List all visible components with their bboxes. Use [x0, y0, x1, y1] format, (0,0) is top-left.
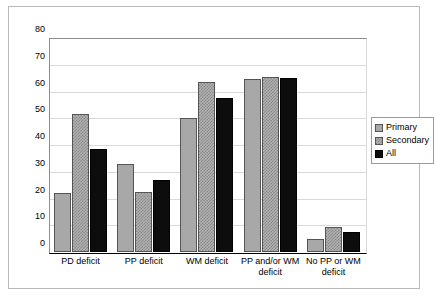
- legend-label: All: [386, 149, 396, 158]
- y-axis-tick-label: 80: [15, 25, 45, 34]
- bar-group: [302, 38, 365, 252]
- y-axis: 01020304050607080: [9, 38, 45, 252]
- legend-item[interactable]: All: [375, 147, 429, 160]
- bar: [244, 79, 261, 252]
- y-axis-tick-label: 10: [15, 212, 45, 221]
- y-axis-tick-label: 30: [15, 159, 45, 168]
- legend-item[interactable]: Primary: [375, 121, 429, 134]
- bar: [325, 227, 342, 252]
- bar: [307, 239, 324, 252]
- y-axis-tick-label: 40: [15, 132, 45, 141]
- y-axis-tick-label: 70: [15, 52, 45, 61]
- bar: [262, 77, 279, 252]
- bar: [343, 232, 360, 252]
- x-axis-tick-label: No PP or WM deficit: [296, 256, 371, 278]
- legend-label: Primary: [386, 123, 417, 132]
- x-axis: PD deficitPP deficitWM deficitPP and/or …: [49, 256, 365, 296]
- legend-swatch-icon: [375, 124, 383, 132]
- y-axis-tick-label: 50: [15, 105, 45, 114]
- bar: [153, 180, 170, 252]
- bar-group: [239, 38, 302, 252]
- bar-group: [175, 38, 238, 252]
- bar: [180, 118, 197, 252]
- legend-label: Secondary: [386, 136, 429, 145]
- bar: [135, 192, 152, 252]
- bar-group: [49, 38, 112, 252]
- legend-swatch-icon: [375, 137, 383, 145]
- bar: [90, 149, 107, 252]
- bar: [117, 164, 134, 252]
- bar: [54, 193, 71, 252]
- bar: [216, 98, 233, 252]
- legend-item[interactable]: Secondary: [375, 134, 429, 147]
- chart-figure: 01020304050607080 PD deficitPP deficitWM…: [8, 6, 420, 289]
- bar-group: [112, 38, 175, 252]
- bar: [280, 78, 297, 252]
- y-axis-tick-label: 60: [15, 79, 45, 88]
- y-axis-tick-label: 0: [15, 239, 45, 248]
- chart-legend: PrimarySecondaryAll: [371, 117, 434, 164]
- bars-layer: [49, 38, 365, 252]
- legend-swatch-icon: [375, 150, 383, 158]
- bar: [198, 82, 215, 252]
- y-axis-tick-label: 20: [15, 186, 45, 195]
- bar: [72, 114, 89, 252]
